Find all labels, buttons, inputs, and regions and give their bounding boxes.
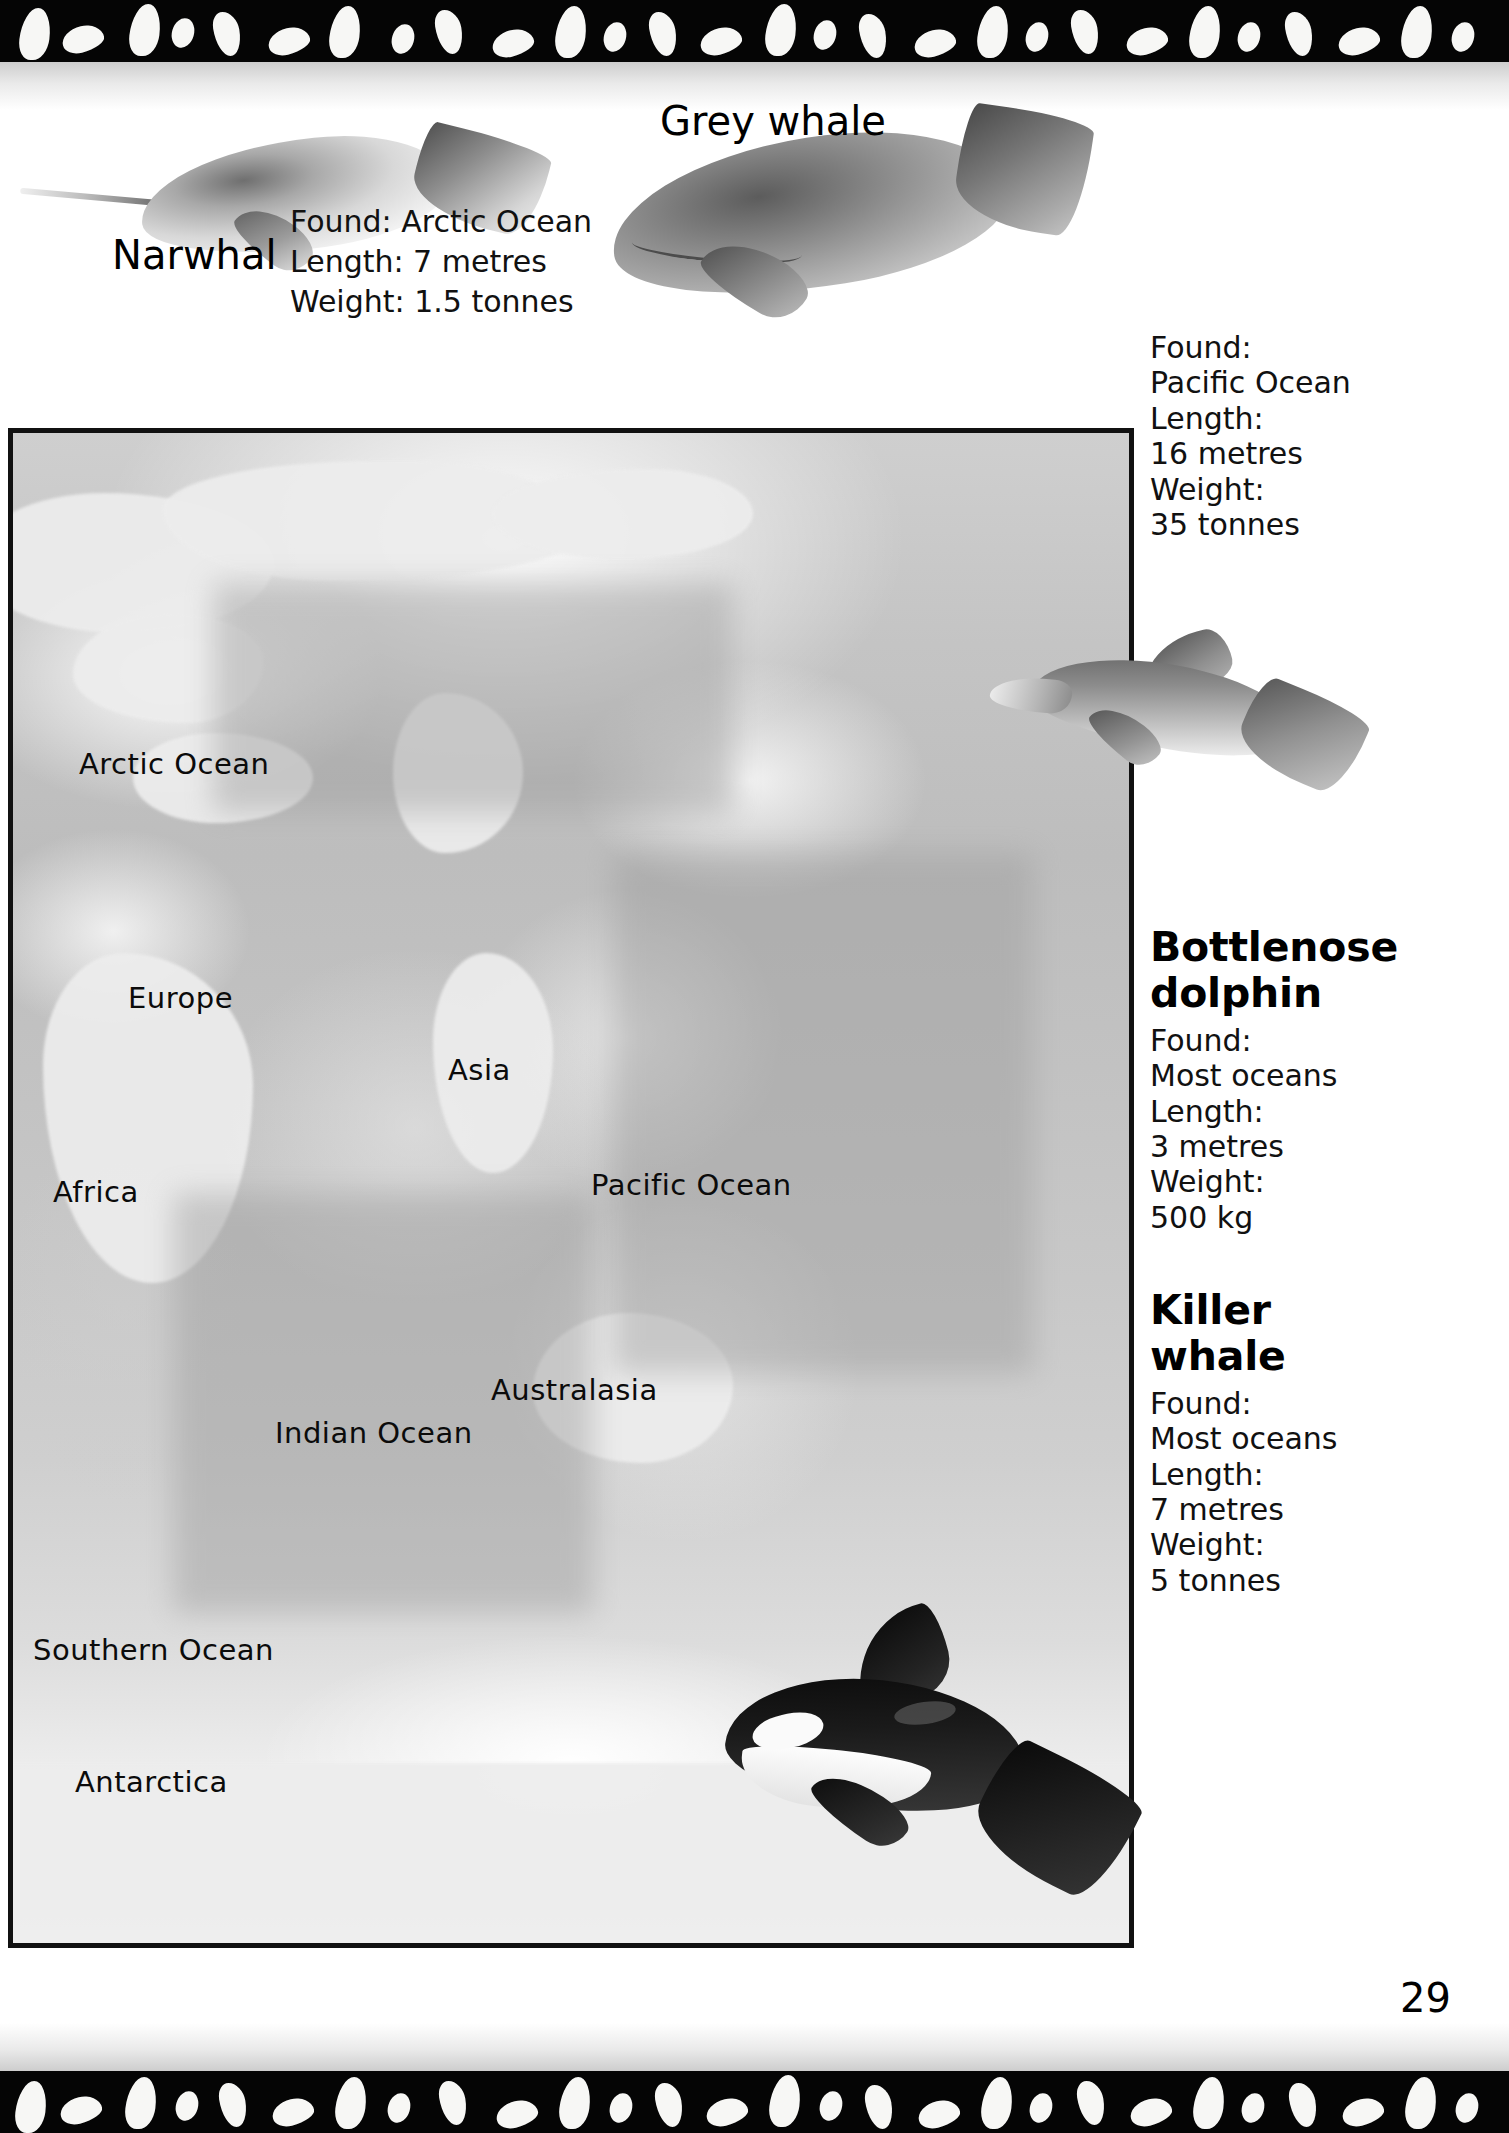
narwhal-weight-line: Weight: 1.5 tonnes — [290, 282, 574, 321]
bottom-border-fade — [0, 2023, 1509, 2071]
killer-whale-illustration — [680, 1610, 1200, 1930]
page-root: Narwhal Found: Arctic Ocean Length: 7 me… — [0, 0, 1509, 2133]
map-label-africa: Africa — [53, 1175, 139, 1209]
page-number: 29 — [1400, 1975, 1451, 2021]
bottlenose-dolphin-name-line2: dolphin — [1150, 971, 1480, 1017]
killer-whale-name-line1: Killer — [1150, 1288, 1480, 1334]
bottlenose-dolphin-length-value: 3 metres — [1150, 1129, 1480, 1164]
killer-whale-length-value: 7 metres — [1150, 1492, 1480, 1527]
killer-whale-length-label: Length: — [1150, 1457, 1480, 1492]
grey-whale-weight-label: Weight: — [1150, 472, 1480, 507]
bottlenose-dolphin-found-label: Found: — [1150, 1023, 1480, 1058]
narwhal-name: Narwhal — [112, 232, 277, 278]
map-label-asia: Asia — [448, 1053, 511, 1087]
bottlenose-dolphin-found-value: Most oceans — [1150, 1058, 1480, 1093]
map-label-indian-ocean: Indian Ocean — [275, 1416, 473, 1450]
map-label-australasia: Australasia — [491, 1373, 658, 1407]
killer-whale-info: Killer whale Found: Most oceans Length: … — [1150, 1288, 1480, 1598]
bottlenose-dolphin-length-label: Length: — [1150, 1094, 1480, 1129]
killer-whale-found-label: Found: — [1150, 1386, 1480, 1421]
grey-whale-length-label: Length: — [1150, 401, 1480, 436]
grey-whale-weight-value: 35 tonnes — [1150, 507, 1480, 542]
bottlenose-dolphin-weight-value: 500 kg — [1150, 1200, 1480, 1235]
grey-whale-found-value: Pacific Ocean — [1150, 365, 1480, 400]
map-label-europe: Europe — [128, 981, 233, 1015]
killer-whale-found-value: Most oceans — [1150, 1421, 1480, 1456]
map-label-arctic-ocean: Arctic Ocean — [79, 747, 269, 781]
bottlenose-dolphin-weight-label: Weight: — [1150, 1164, 1480, 1199]
map-label-pacific-ocean: Pacific Ocean — [591, 1168, 792, 1202]
top-orca-border — [0, 0, 1509, 62]
map-label-antarctica: Antarctica — [75, 1765, 228, 1799]
grey-whale-info: Found: Pacific Ocean Length: 16 metres W… — [1150, 330, 1480, 542]
bottlenose-dolphin-illustration — [990, 630, 1410, 810]
killer-whale-name-line2: whale — [1150, 1334, 1480, 1380]
killer-whale-weight-value: 5 tonnes — [1150, 1563, 1480, 1598]
narwhal-found-line: Found: Arctic Ocean — [290, 202, 592, 241]
grey-whale-name: Grey whale — [660, 98, 886, 144]
killer-whale-weight-label: Weight: — [1150, 1527, 1480, 1562]
grey-whale-length-value: 16 metres — [1150, 436, 1480, 471]
bottom-orca-border — [0, 2071, 1509, 2133]
narwhal-length-line: Length: 7 metres — [290, 242, 547, 281]
map-label-southern-ocean: Southern Ocean — [33, 1633, 274, 1667]
grey-whale-found-label: Found: — [1150, 330, 1480, 365]
bottlenose-dolphin-name-line1: Bottlenose — [1150, 925, 1480, 971]
bottlenose-dolphin-info: Bottlenose dolphin Found: Most oceans Le… — [1150, 925, 1480, 1235]
